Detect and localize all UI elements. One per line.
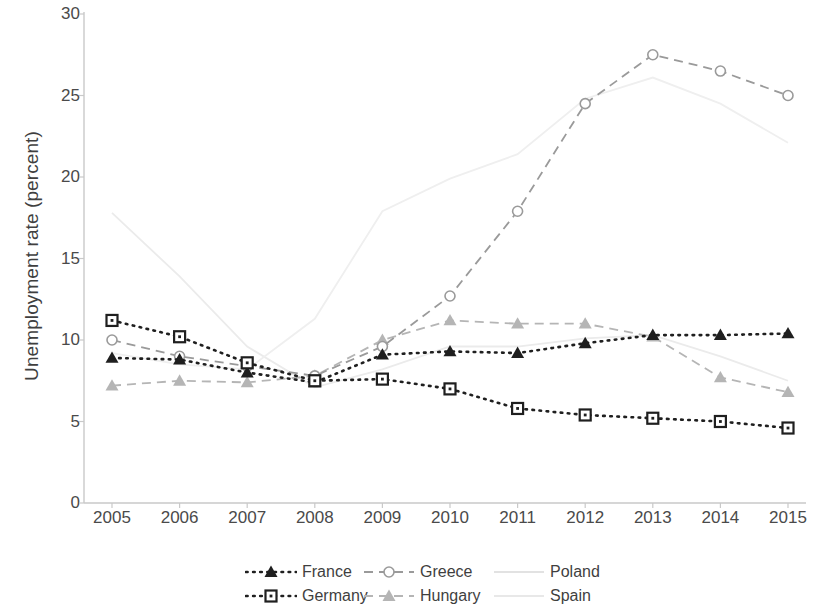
marker-square (647, 413, 658, 424)
x-tick-2013: 2013 (634, 508, 672, 528)
unemployment-rate-line-chart: Unemployment rate (percent) 051015202530… (0, 0, 815, 614)
legend-swatch-hungary (363, 588, 415, 604)
legend-swatch-spain (493, 588, 545, 604)
marker-circle (445, 291, 455, 301)
marker-square (715, 416, 726, 427)
legend-swatch-germany (245, 588, 297, 604)
series-spain (112, 78, 788, 370)
legend-label: Germany (302, 587, 368, 605)
marker-circle (783, 91, 793, 101)
marker-square (445, 383, 456, 394)
series-line (112, 320, 788, 392)
marker-triangle (782, 327, 795, 338)
legend-swatch-france (245, 564, 297, 580)
x-tick-2012: 2012 (566, 508, 604, 528)
x-tick-2009: 2009 (363, 508, 401, 528)
marker-circle (648, 50, 658, 60)
series-germany (107, 315, 794, 434)
x-tick-2014: 2014 (701, 508, 739, 528)
marker-square (783, 423, 794, 434)
x-tick-2005: 2005 (93, 508, 131, 528)
axis-lines (84, 12, 806, 503)
legend-swatch-greece (363, 564, 415, 580)
legend-entry-france[interactable]: France (245, 560, 363, 584)
marker-circle (107, 335, 117, 345)
marker-circle (513, 206, 523, 216)
legend-entry-hungary[interactable]: Hungary (363, 584, 493, 608)
legend-label: Poland (550, 563, 600, 581)
legend-swatch-poland (493, 564, 545, 580)
marker-square (377, 374, 388, 385)
legend-entry-poland[interactable]: Poland (493, 560, 618, 584)
legend-label: France (302, 563, 352, 581)
series-greece (107, 50, 793, 381)
marker-square (107, 315, 118, 326)
marker-square (580, 409, 591, 420)
legend-label: Hungary (420, 587, 480, 605)
series-line (112, 333, 788, 382)
x-tick-2010: 2010 (431, 508, 469, 528)
x-tick-2008: 2008 (296, 508, 334, 528)
marker-square (242, 357, 253, 368)
legend-entry-greece[interactable]: Greece (363, 560, 493, 584)
series-line (112, 78, 788, 370)
series-line (112, 55, 788, 376)
marker-circle (580, 99, 590, 109)
marker-square (309, 375, 320, 386)
legend-entry-germany[interactable]: Germany (245, 584, 363, 608)
data-series-layer (106, 50, 795, 434)
legend-entry-spain[interactable]: Spain (493, 584, 618, 608)
x-tick-2007: 2007 (228, 508, 266, 528)
marker-square (174, 331, 185, 342)
series-line (112, 320, 788, 428)
chart-legend: FranceGreecePolandGermanyHungarySpain (245, 560, 675, 608)
x-tick-2011: 2011 (499, 508, 536, 528)
marker-square (512, 403, 523, 414)
marker-circle (384, 567, 394, 577)
marker-triangle (444, 314, 457, 325)
marker-triangle (173, 374, 186, 385)
legend-label: Spain (550, 587, 591, 605)
x-tick-2015: 2015 (769, 508, 807, 528)
marker-triangle (714, 371, 727, 382)
y-tick-marks (79, 14, 84, 503)
marker-square (266, 591, 277, 602)
marker-circle (715, 66, 725, 76)
x-tick-2006: 2006 (161, 508, 199, 528)
series-france (106, 327, 795, 387)
legend-label: Greece (420, 563, 472, 581)
